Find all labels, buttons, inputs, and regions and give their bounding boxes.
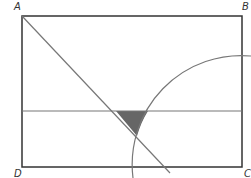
diagonal-line (22, 16, 170, 173)
vertex-label-d: D (14, 169, 22, 178)
diagram-canvas (0, 0, 251, 178)
rectangle-abcd (22, 16, 242, 167)
arc-centered-at-c (132, 56, 251, 178)
vertex-label-b: B (242, 2, 249, 12)
vertex-label-a: A (14, 2, 21, 12)
geometry-diagram: A B C D (0, 0, 251, 178)
vertex-label-c: C (244, 169, 251, 178)
